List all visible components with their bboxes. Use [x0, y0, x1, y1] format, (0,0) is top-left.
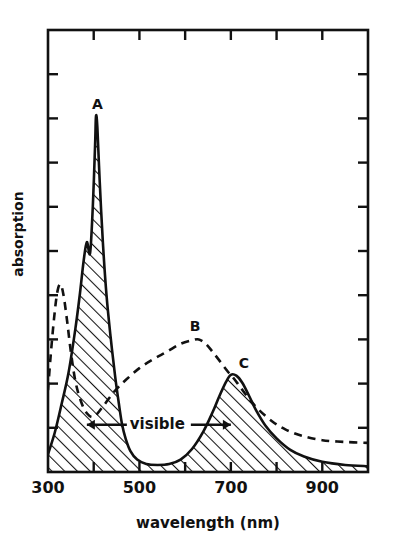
peak-label-c: C: [239, 355, 249, 371]
peak-label-a: A: [92, 96, 103, 112]
x-tick-label-500: 500: [109, 478, 169, 497]
peak-label-b: B: [190, 318, 201, 334]
x-tick-label-300: 300: [18, 478, 78, 497]
spectrum-plot-svg: [0, 0, 395, 552]
hatched-region: [48, 115, 368, 472]
x-tick-label-700: 700: [201, 478, 261, 497]
x-tick-label-900: 900: [292, 478, 352, 497]
x-axis-label: wavelength (nm): [48, 514, 368, 532]
absorption-spectrum-figure: absorption wavelength (nm) 300 500 700 9…: [0, 0, 395, 552]
x-axis-ticks-top: [94, 30, 323, 40]
y-axis-ticks-right: [358, 74, 368, 428]
visible-range-label: visible: [130, 415, 185, 433]
y-axis-label: absorption: [10, 174, 26, 294]
